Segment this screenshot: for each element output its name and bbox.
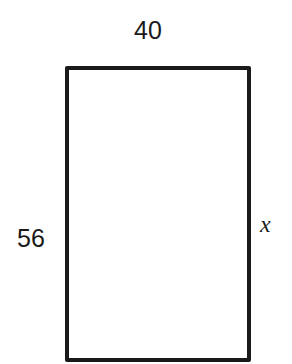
top-side-label: 40 — [134, 18, 162, 43]
rectangle-shape — [65, 66, 251, 362]
left-side-label: 56 — [17, 226, 45, 251]
right-side-label: x — [260, 212, 271, 236]
